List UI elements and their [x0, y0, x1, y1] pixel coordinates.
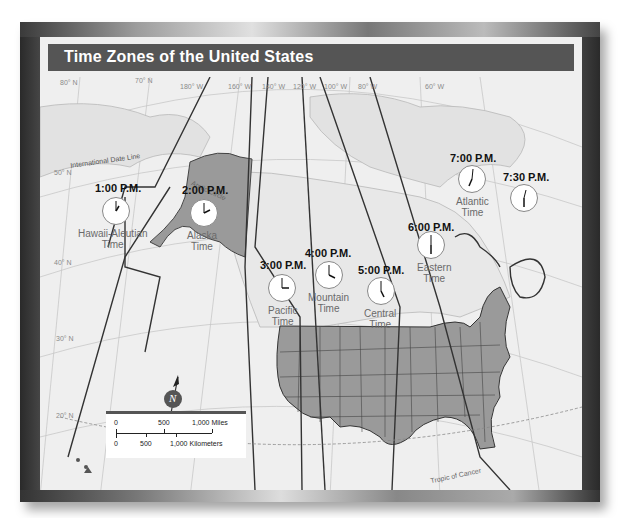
zone-time-central: 5:00 P.M.: [358, 264, 404, 276]
lat-label-50n: 50° N: [54, 169, 72, 176]
lon-label-160w: 160° W: [228, 83, 251, 90]
zone-name-central: CentralTime: [364, 308, 396, 330]
zone-name-atlantic: AtlanticTime: [456, 196, 489, 218]
picture-frame: Time Zones of the United States: [20, 22, 600, 502]
zone-name-eastern: EasternTime: [417, 262, 451, 284]
scale-mi-500: 500: [158, 419, 170, 426]
title-bar: Time Zones of the United States: [48, 44, 574, 71]
frame-bottom-bevel: [20, 490, 600, 502]
clock-icon-eastern: [417, 231, 445, 259]
map-panel: Time Zones of the United States: [40, 37, 582, 490]
lon-label-80w: 80° W: [358, 83, 377, 90]
scale-mi-1000: 1,000 Miles: [192, 419, 228, 426]
zone-time-hawaii-aleutian: 1:00 P.M.: [95, 182, 141, 194]
clock-icon-atlantic: [458, 165, 486, 193]
clock-icon-central: [367, 277, 395, 305]
zone-name-pacific: PacificTime: [268, 305, 297, 327]
lat-label-40n: 40° N: [54, 259, 72, 266]
lon-label-180w: 180° W: [180, 83, 203, 90]
lat-label-80n: 80° N: [60, 79, 78, 86]
clock-icon-pacific: [268, 274, 296, 302]
clock-icon-newfoundland: [510, 184, 538, 212]
scale-km-1000: 1,000 Kilometers: [170, 440, 223, 447]
compass-letter: N: [169, 392, 176, 404]
lat-label-70n: 70° N: [135, 77, 153, 84]
lat-label-30n: 30° N: [56, 335, 74, 342]
zone-time-atlantic: 7:00 P.M.: [450, 152, 496, 164]
north-arrow-compass: N: [158, 375, 188, 415]
scale-line: [116, 433, 212, 434]
zone-time-newfoundland: 7:30 P.M.: [503, 171, 549, 183]
zone-time-pacific: 3:00 P.M.: [260, 259, 306, 271]
zone-name-mountain: MountainTime: [308, 292, 349, 314]
scale-bar: 0 500 1,000 Miles 0 500 1,000 Kilometers: [106, 411, 246, 458]
lon-label-120w: 120° W: [293, 83, 316, 90]
scale-km-500: 500: [140, 440, 152, 447]
clock-icon-mountain: [315, 261, 343, 289]
zone-time-alaska: 2:00 P.M.: [182, 184, 228, 196]
frame-top-bevel: [20, 22, 600, 37]
map-title: Time Zones of the United States: [64, 48, 314, 66]
lon-label-140w: 140° W: [262, 83, 285, 90]
scale-km-0: 0: [114, 440, 118, 447]
time-zone-map: 80° N 70° N 50° N 40° N 30° N 20° N 180°…: [40, 77, 582, 490]
zone-time-mountain: 4:00 P.M.: [305, 247, 351, 259]
clock-icon-alaska: [190, 199, 218, 227]
lat-label-20n: 20° N: [56, 412, 74, 419]
lon-label-60w: 60° W: [425, 83, 444, 90]
clock-icon-hawaii-aleutian: [102, 197, 130, 225]
scale-mi-0: 0: [114, 419, 118, 426]
lon-label-100w: 100° W: [324, 83, 347, 90]
zone-name-alaska: AlaskaTime: [187, 230, 217, 252]
zone-name-hawaii-aleutian: Hawaii-AleutianTime: [78, 228, 147, 250]
